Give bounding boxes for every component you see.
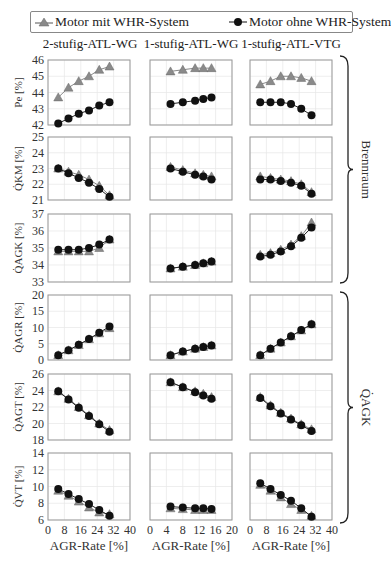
circle-marker	[106, 236, 114, 244]
circle-marker	[167, 378, 175, 386]
x-axis-label: AGR-Rate [%]	[50, 538, 128, 553]
circle-marker	[277, 177, 285, 185]
circle-marker	[65, 115, 73, 123]
circle-marker	[308, 427, 316, 435]
panel-r2-c1	[150, 214, 232, 282]
circle-marker	[179, 383, 187, 391]
y-tick-label: 23	[32, 162, 44, 176]
triangle-marker	[64, 83, 73, 91]
circle-marker	[95, 241, 103, 249]
group-brace-0	[340, 56, 353, 283]
panel-r1-c2	[250, 137, 332, 200]
circle-marker	[167, 264, 175, 272]
y-tick-label: 45	[32, 69, 44, 83]
circle-marker	[308, 224, 316, 232]
panel-r2-c0	[48, 214, 130, 282]
y-tick-label: 24	[32, 384, 44, 398]
x-tick-label: 32	[310, 523, 322, 537]
circle-marker	[85, 106, 93, 114]
circle-marker	[297, 182, 305, 190]
group-label-1: Q̇AGK	[359, 389, 374, 427]
x-tick-label: 8	[61, 523, 67, 537]
y-tick-label: 21	[32, 193, 44, 207]
y-tick-label: 20	[32, 417, 44, 431]
circle-marker	[287, 415, 295, 423]
circle-marker	[199, 172, 207, 180]
circle-marker	[308, 513, 316, 521]
triangle-marker	[105, 62, 114, 70]
y-tick-label: 25	[32, 130, 44, 144]
circle-marker	[208, 395, 216, 403]
panel-r2-c2	[250, 214, 332, 282]
y-tick-label: 5	[38, 337, 44, 351]
circle-marker	[167, 351, 175, 359]
circle-marker	[179, 503, 187, 511]
circle-marker	[208, 341, 216, 349]
circle-marker	[75, 404, 83, 412]
y-tick-label: 10	[32, 321, 44, 335]
y-axis-label: Q̇AGT [%]	[12, 382, 24, 432]
y-tick-label: 33	[32, 275, 44, 289]
circle-marker	[297, 504, 305, 512]
circle-marker	[191, 97, 199, 105]
circle-marker	[287, 100, 295, 108]
x-tick-label: 32	[108, 523, 120, 537]
x-tick-label: 16	[210, 523, 222, 537]
x-tick-label: 8	[263, 523, 269, 537]
circle-marker	[85, 335, 93, 343]
panel-r5-c0	[48, 453, 130, 520]
y-tick-label: 8	[38, 496, 44, 510]
circle-marker	[95, 506, 103, 514]
y-tick-label: 15	[32, 304, 44, 318]
circle-marker	[191, 261, 199, 269]
circle-marker	[65, 169, 73, 177]
x-tick-label: 20	[226, 523, 238, 537]
circle-marker	[65, 396, 73, 404]
panel-r4-c0	[48, 374, 130, 440]
circle-marker	[308, 190, 316, 198]
group-label-0: Brennraum	[359, 140, 374, 198]
circle-marker	[191, 388, 199, 396]
y-tick-label: 36	[32, 224, 44, 238]
circle-marker	[277, 247, 285, 255]
circle-marker	[85, 244, 93, 252]
panel-r4-c1	[150, 374, 232, 440]
circle-marker	[199, 95, 207, 103]
y-axis-label: Q̇KM [%]	[12, 146, 24, 191]
circle-marker	[208, 176, 216, 184]
circle-marker	[75, 246, 83, 254]
circle-marker	[167, 165, 175, 173]
circle-marker	[75, 110, 83, 118]
circle-marker	[95, 185, 103, 193]
circle-marker	[191, 171, 199, 179]
circle-marker	[179, 168, 187, 176]
x-tick-label: 40	[124, 523, 136, 537]
circle-marker	[297, 326, 305, 334]
panel-r3-c1	[150, 295, 232, 360]
triangle-marker	[85, 72, 94, 80]
y-axis-label: Q̇VT [%]	[12, 466, 24, 508]
x-axis-label: AGR-Rate [%]	[252, 538, 330, 553]
circle-marker	[106, 512, 114, 520]
x-tick-label: 40	[326, 523, 338, 537]
circle-marker	[199, 259, 207, 267]
circle-marker	[54, 485, 62, 493]
circle-marker	[85, 412, 93, 420]
circle-marker	[277, 338, 285, 346]
circle-marker	[65, 346, 73, 354]
circle-marker	[85, 179, 93, 187]
circle-marker	[208, 258, 216, 266]
circle-marker	[54, 165, 62, 173]
x-tick-label: 0	[247, 523, 253, 537]
circle-marker	[267, 98, 275, 106]
y-axis-label: Q̇AGK [%]	[12, 222, 24, 273]
panel-r0-c1	[150, 60, 232, 125]
circle-marker	[179, 263, 187, 271]
x-tick-label: 12	[193, 523, 205, 537]
circle-marker	[287, 332, 295, 340]
circle-marker	[277, 491, 285, 499]
x-tick-label: 4	[163, 523, 169, 537]
circle-marker	[106, 98, 114, 106]
circle-marker	[308, 320, 316, 328]
circle-marker	[54, 387, 62, 395]
